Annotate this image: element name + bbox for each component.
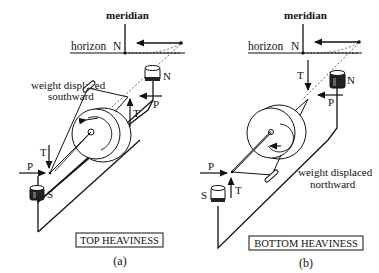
south-cup-label: S xyxy=(201,189,207,201)
panel-letter-b: (b) xyxy=(299,256,313,270)
lower-pivot-dot xyxy=(49,172,52,175)
north-cup xyxy=(145,66,160,82)
gyroscope-wheel xyxy=(247,105,306,159)
panel-letter-a: (a) xyxy=(113,254,126,268)
weight-label-line1: weight displaced xyxy=(298,166,373,178)
weight-rod-bottom xyxy=(232,172,272,175)
north-label: N xyxy=(291,40,300,52)
origin-dot xyxy=(301,51,304,54)
meridian-label: meridian xyxy=(284,9,327,21)
force-p-lower-label: P xyxy=(27,160,33,172)
dashed-arc xyxy=(130,44,180,53)
caption-top-heaviness: TOP HEAVINESS xyxy=(80,235,159,246)
weight-label-line2: northward xyxy=(310,178,356,190)
weight-rod-top xyxy=(88,88,128,97)
force-t-lower-label: T xyxy=(40,146,47,158)
meridian-label: meridian xyxy=(106,9,149,21)
south-cup-label: S xyxy=(47,188,53,200)
origin-dot xyxy=(123,51,126,54)
gyroscope-diagram: meridian horizon N N P T weight displace… xyxy=(0,0,379,273)
force-t-lower-label: T xyxy=(235,184,242,196)
force-p-upper-label: P xyxy=(153,98,159,110)
force-p-lower-label: P xyxy=(208,160,214,172)
north-label: N xyxy=(113,40,122,52)
caption-bottom-heaviness: BOTTOM HEAVINESS xyxy=(254,238,358,249)
south-cup xyxy=(211,186,225,203)
panel-a: meridian horizon N N P T weight displace… xyxy=(19,9,185,268)
panel-b: meridian horizon N T N P xyxy=(200,9,373,270)
horizon-label: horizon xyxy=(248,40,283,52)
horizon-label: horizon xyxy=(71,40,106,52)
gyroscope-wheel xyxy=(72,108,131,162)
south-cup xyxy=(30,186,44,201)
north-cup-label: N xyxy=(163,70,171,82)
north-cup xyxy=(330,71,345,89)
force-t-upper-label: T xyxy=(297,69,304,81)
north-cup-label: N xyxy=(347,74,355,86)
weight-label-line2: southward xyxy=(48,90,94,102)
force-t-upper-label: T xyxy=(133,107,140,119)
force-p-upper-label: P xyxy=(328,96,334,108)
